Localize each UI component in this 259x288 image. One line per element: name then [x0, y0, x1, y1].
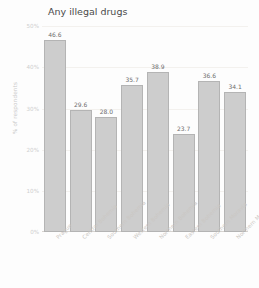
bar-value-label: 35.7 [119, 76, 145, 83]
bar-series: 46.629.628.035.738.923.736.634.1 [42, 18, 248, 232]
y-tick-label: 20% [27, 147, 39, 153]
y-tick-label: 10% [27, 188, 39, 194]
bar-value-label: 46.6 [42, 31, 68, 38]
bar-value-label: 34.1 [222, 83, 248, 90]
y-tick-label: 30% [27, 106, 39, 112]
bar-value-label: 28.0 [94, 108, 120, 115]
bar-group[interactable]: 34.1 [222, 18, 248, 232]
chart-title: Any illegal drugs [48, 6, 127, 17]
bar-value-label: 23.7 [171, 125, 197, 132]
bar-group[interactable]: 38.9 [145, 18, 171, 232]
y-tick-label: 50% [27, 23, 39, 29]
y-tick-label: 0% [30, 229, 39, 235]
y-axis-title: % of respondents [12, 63, 18, 153]
plot-area: Any illegal drugs 0%10%20%30%40%50% 46.6… [42, 18, 248, 232]
bar-value-label: 29.6 [68, 101, 94, 108]
y-tick-label: 40% [27, 64, 39, 70]
bar-group[interactable]: 36.6 [197, 18, 223, 232]
bar-group[interactable]: 28.0 [94, 18, 120, 232]
bar[interactable] [70, 110, 92, 232]
bar-group[interactable]: 46.6 [42, 18, 68, 232]
bar[interactable] [44, 40, 66, 232]
bar-value-label: 36.6 [197, 72, 223, 79]
bar-value-label: 38.9 [145, 63, 171, 70]
bar-group[interactable]: 29.6 [68, 18, 94, 232]
chart-figure: % of respondents Any illegal drugs 0%10%… [0, 0, 259, 288]
